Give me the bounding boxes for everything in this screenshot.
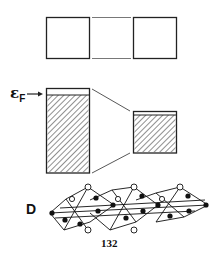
band-diagram-figure xyxy=(0,0,223,264)
top-left-box xyxy=(47,18,90,59)
top-right-box xyxy=(134,18,177,59)
page-number: 132 xyxy=(101,237,118,249)
panel-label: D xyxy=(26,201,36,217)
fermi-level-label: εF xyxy=(10,84,25,104)
middle-band-diagram xyxy=(27,89,177,174)
crystal-structure-illustration xyxy=(49,184,208,233)
top-band-diagram xyxy=(47,18,177,59)
